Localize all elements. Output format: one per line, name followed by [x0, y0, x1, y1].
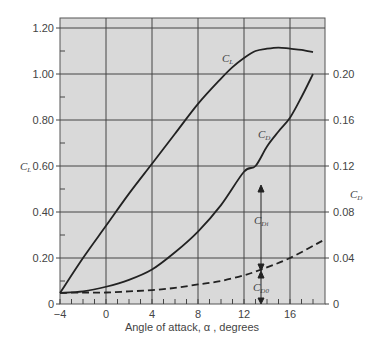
y-left-tick-label: 0.40 [33, 206, 54, 218]
y-left-axis-title: CL [20, 160, 31, 174]
y-right-tick-label: 0.12 [333, 160, 354, 172]
y-left-tick-label: 0.60 [33, 160, 54, 172]
y-right-tick-label: 0 [333, 298, 339, 310]
y-left-tick-label: 0.20 [33, 252, 54, 264]
x-tick-label: 8 [195, 308, 201, 320]
y-right-tick-label: 0.04 [333, 252, 354, 264]
y-right-tick-label: 0.08 [333, 206, 354, 218]
x-axis-title: Angle of attack, α , degrees [125, 321, 260, 333]
plot-area [60, 18, 325, 304]
x-tick-label: 12 [238, 308, 250, 320]
y-right-axis-title: CD [350, 188, 362, 202]
y-right-tick-label: 0.20 [333, 68, 354, 80]
y-left-tick-label: 1.00 [33, 68, 54, 80]
x-tick-label: −4 [54, 308, 67, 320]
y-left-tick-label: 0.80 [33, 114, 54, 126]
y-right-tick-label: 0.16 [333, 114, 354, 126]
x-tick-label: 16 [284, 308, 296, 320]
x-tick-label: 0 [103, 308, 109, 320]
y-left-tick-label: 1.20 [33, 22, 54, 34]
lift-drag-chart: 00.200.400.600.801.001.2000.040.080.120.… [0, 0, 378, 347]
x-tick-label: 4 [149, 308, 155, 320]
